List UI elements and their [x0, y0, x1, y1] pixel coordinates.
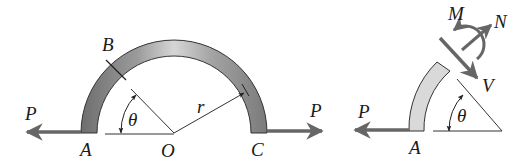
label-a-right: A	[407, 137, 421, 158]
label-m: M	[447, 3, 465, 24]
label-c: C	[251, 139, 264, 160]
label-theta: θ	[128, 109, 137, 130]
label-o: O	[161, 140, 175, 161]
bar-segment-ab	[409, 62, 450, 131]
label-r: r	[197, 96, 205, 117]
label-b: B	[102, 34, 114, 55]
label-p: P	[357, 101, 370, 122]
label-a: A	[78, 139, 92, 160]
right-figure: M N V P θ A	[355, 3, 508, 158]
left-figure: B θ r P P A O C	[24, 34, 322, 161]
radius-line-ob	[131, 89, 174, 133]
curved-bar-diagram: B θ r P P A O C M N V P θ A	[0, 0, 531, 162]
label-n: N	[493, 11, 508, 32]
label-p-left: P	[24, 103, 37, 124]
label-theta-right: θ	[457, 105, 466, 126]
label-p-right: P	[309, 100, 322, 121]
label-v: V	[482, 75, 496, 96]
radius-r-arrow	[174, 93, 244, 133]
